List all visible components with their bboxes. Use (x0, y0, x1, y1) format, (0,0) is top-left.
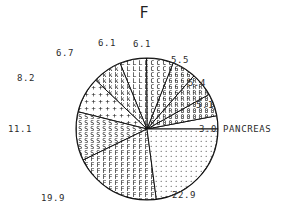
pie-chart: F + S F L (0, 0, 289, 223)
slice-label-8-2: 8.2 (17, 73, 35, 83)
slice-label-5-5: 5.5 (171, 55, 189, 65)
slice-label-6-1-a: 6.1 (133, 39, 151, 49)
slice-label-pancreas: 3.0 PANCREAS (199, 124, 271, 134)
slice-label-11-1: 11.1 (8, 124, 32, 134)
pie-plot-area: + S F L C 6 (0, 0, 289, 223)
slice-label-5-1: 5.1 (196, 100, 214, 110)
slice-22-9 (147, 129, 218, 199)
slice-label-6-7: 6.7 (56, 48, 74, 58)
slice-label-5-4: 5.4 (188, 78, 206, 88)
slice-label-19-9: 19.9 (41, 193, 65, 203)
slice-label-6-1-b: 6.1 (98, 38, 116, 48)
slice-label-22-9: 22.9 (172, 190, 196, 200)
